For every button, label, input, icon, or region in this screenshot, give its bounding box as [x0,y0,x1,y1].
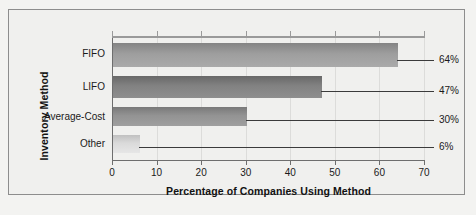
value-leader-line [321,91,434,92]
x-tick-label: 50 [315,167,355,179]
tick-mark-bottom [112,160,113,165]
x-axis-line [112,160,425,161]
tick-mark-top [379,31,380,38]
tick-mark-bottom [424,160,425,165]
tick-mark-top [112,31,113,38]
value-leader-line [246,120,434,121]
x-tick-label: 40 [270,167,310,179]
tick-mark-bottom [246,160,247,165]
gridline [424,37,425,160]
tick-mark-top [157,31,158,38]
x-tick-label: 10 [137,167,177,179]
x-tick-label: 70 [404,167,444,179]
tick-mark-bottom [157,160,158,165]
tick-mark-bottom [335,160,336,165]
tick-mark-top [246,31,247,38]
tick-mark-top [201,31,202,38]
value-leader-line [397,60,434,61]
value-label: 6% [439,141,476,152]
y-category-label: Average-Cost [13,111,105,122]
bar [113,135,140,153]
chart-frame: Inventory Method 010203040506070 FIFO64%… [8,9,465,195]
tick-mark-top [424,31,425,38]
x-tick-label: 0 [92,167,132,179]
y-category-label: LIFO [13,81,105,92]
value-label: 64% [439,54,476,65]
value-leader-line [139,147,434,148]
x-tick-label: 30 [226,167,266,179]
x-tick-label: 20 [181,167,221,179]
tick-mark-bottom [201,160,202,165]
y-category-label: FIFO [13,48,105,59]
bar [113,107,247,126]
y-category-label: Other [13,138,105,149]
value-label: 47% [439,85,476,96]
bar [113,76,322,98]
value-label: 30% [439,114,476,125]
tick-mark-bottom [379,160,380,165]
tick-mark-top [290,31,291,38]
x-tick-label: 60 [359,167,399,179]
tick-mark-bottom [290,160,291,165]
x-axis-title: Percentage of Companies Using Method [112,185,425,197]
plot-top-border [112,36,425,38]
bar [113,43,398,67]
tick-mark-top [335,31,336,38]
chart-figure: Inventory Method 010203040506070 FIFO64%… [0,0,476,215]
